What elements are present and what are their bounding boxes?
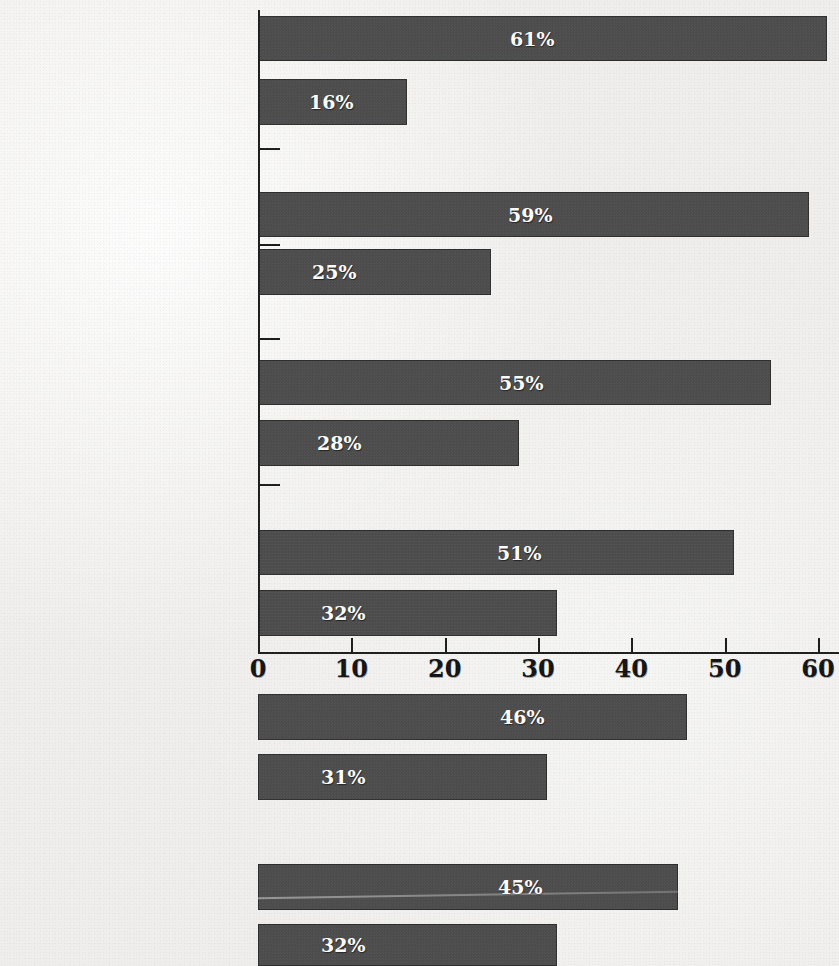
bar-value-label: 25%	[312, 263, 357, 282]
axis-tick-label: 60	[796, 657, 839, 681]
bar-value-label: 59%	[508, 206, 553, 225]
bar-value-label: 16%	[309, 93, 354, 112]
bar-value-label: 28%	[317, 434, 362, 453]
bar	[258, 249, 491, 295]
axis-tick-mark	[538, 638, 540, 653]
bar	[258, 694, 687, 740]
axis-tick-mark	[631, 638, 633, 653]
axis-tick-label: 50	[703, 657, 747, 681]
category-separator-tick	[258, 244, 280, 246]
axis-tick-label: 0	[236, 657, 280, 681]
bar	[258, 754, 547, 800]
bar-value-label: 32%	[321, 936, 366, 955]
axis-tick-mark	[818, 638, 820, 653]
bar	[258, 864, 678, 910]
bar-chart: Decreased doctors' time with patients61%…	[0, 0, 839, 966]
bar-value-label: 51%	[497, 544, 542, 563]
bar-value-label: 45%	[498, 878, 543, 897]
axis-tick-label: 20	[423, 657, 467, 681]
paper-grain-texture	[0, 0, 839, 966]
bar	[258, 420, 519, 466]
axis-tick-label: 30	[516, 657, 560, 681]
axis-tick-mark	[725, 638, 727, 653]
bar-value-label: 55%	[499, 374, 544, 393]
bar-value-label: 61%	[510, 30, 555, 49]
category-separator-tick	[258, 484, 280, 486]
axis-tick-mark	[445, 638, 447, 653]
bar-value-label: 32%	[321, 604, 366, 623]
category-separator-tick	[258, 338, 280, 340]
bar	[258, 924, 557, 966]
bar-value-label: 31%	[321, 768, 366, 787]
axis-tick-label: 40	[609, 657, 653, 681]
axis-tick-label: 10	[329, 657, 373, 681]
category-separator-tick	[258, 148, 280, 150]
axis-tick-mark	[351, 638, 353, 653]
axis-vertical-spine	[258, 10, 260, 652]
bar-value-label: 46%	[500, 708, 545, 727]
bar	[258, 530, 734, 575]
bar	[258, 590, 557, 636]
